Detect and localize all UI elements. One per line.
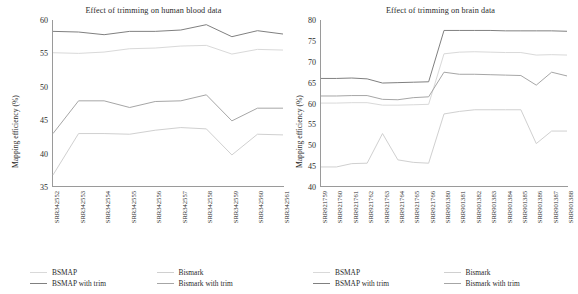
x-axis-tick-label: SRR342555 — [130, 191, 137, 223]
y-axis-tick: 55 — [308, 120, 320, 129]
series-line — [53, 128, 283, 175]
series-line — [321, 30, 567, 83]
legend-label: Bismark — [179, 268, 204, 277]
legend-swatch-icon — [313, 283, 330, 284]
x-axis-tick-label: SRR901388 — [567, 191, 574, 223]
x-axis-tick-label: SRR921764 — [398, 191, 405, 223]
legend-item[interactable]: Bismark — [157, 268, 282, 277]
x-axis-tick-label: SRR342558 — [206, 191, 213, 223]
x-axis-tick-label: SRR921762 — [367, 191, 374, 223]
series-lines — [52, 20, 284, 187]
legend-swatch-icon — [444, 283, 461, 284]
legend-item[interactable]: Bismark with trim — [444, 279, 573, 288]
y-axis-tick: 70 — [308, 57, 320, 66]
x-axis-tick-label: SRR342554 — [104, 191, 111, 223]
x-axis-tick-label: SRR342556 — [155, 191, 162, 223]
chart-legend: BSMAPBismarkBSMAP with trimBismark with … — [289, 268, 578, 288]
chart-panel-human-blood: Effect of trimming on human blood data M… — [0, 0, 289, 294]
y-axis-tick: 55 — [40, 49, 52, 58]
legend-item[interactable]: BSMAP — [313, 268, 442, 277]
y-axis-tick: 60 — [40, 16, 52, 25]
x-axis-tick-label: SRR901383 — [490, 191, 497, 223]
x-axis-tick-label: SRR342560 — [257, 191, 264, 223]
plot-area: 354045505560SRR342552SRR342553SRR342554S… — [52, 20, 284, 187]
y-axis-tick: 50 — [40, 82, 52, 91]
x-axis-tick-label: SRR901387 — [552, 191, 559, 223]
y-axis-label: Mapping efficiency (%) — [11, 95, 20, 168]
x-axis-tick-label: SRR342552 — [53, 191, 60, 223]
series-line — [321, 110, 567, 167]
series-line — [321, 72, 567, 100]
x-axis-tick: SRR901388 — [567, 159, 574, 191]
x-axis-tick-label: SRR342557 — [181, 191, 188, 223]
chart-title: Effect of trimming on brain data — [289, 6, 578, 15]
x-axis-tick-label: SRR901386 — [536, 191, 543, 223]
y-axis-tick: 45 — [308, 162, 320, 171]
y-axis-tick: 50 — [308, 141, 320, 150]
chart-legend: BSMAPBismarkBSMAP with trimBismark with … — [0, 268, 289, 288]
plot-area: 404550556065707580SRR921759SRR921760SRR9… — [320, 20, 568, 187]
legend-label: Bismark with trim — [466, 279, 520, 288]
legend-item[interactable]: Bismark — [444, 268, 573, 277]
legend-swatch-icon — [313, 272, 330, 273]
legend-item[interactable]: BSMAP with trim — [30, 279, 155, 288]
legend-swatch-icon — [157, 272, 174, 273]
y-axis-label: Mapping efficiency (%) — [295, 95, 304, 168]
y-axis-tick: 40 — [308, 183, 320, 192]
legend-swatch-icon — [30, 283, 47, 284]
legend-label: BSMAP — [52, 268, 77, 277]
x-axis-tick-label: SRR342559 — [232, 191, 239, 223]
series-line — [53, 95, 283, 134]
x-axis-tick-label: SRR342553 — [79, 191, 86, 223]
y-axis-tick: 45 — [40, 116, 52, 125]
x-axis-tick-label: SRR921760 — [336, 191, 343, 223]
series-line — [53, 45, 283, 54]
series-lines — [320, 20, 568, 187]
x-axis-tick-label: SRR921759 — [321, 191, 328, 223]
x-axis-tick-label: SRR901381 — [459, 191, 466, 223]
legend-item[interactable]: Bismark with trim — [157, 279, 282, 288]
legend-label: BSMAP with trim — [52, 279, 106, 288]
y-axis-tick: 75 — [308, 36, 320, 45]
x-axis-tick-label: SRR921761 — [352, 191, 359, 223]
legend-label: BSMAP — [335, 268, 360, 277]
chart-title: Effect of trimming on human blood data — [0, 6, 289, 15]
y-axis-tick: 35 — [40, 183, 52, 192]
legend-swatch-icon — [157, 283, 174, 284]
y-axis-tick: 40 — [40, 149, 52, 158]
legend-swatch-icon — [444, 272, 461, 273]
x-axis-tick-label: SRR921766 — [429, 191, 436, 223]
x-axis-tick-label: SRR921763 — [383, 191, 390, 223]
legend-label: BSMAP with trim — [335, 279, 389, 288]
figure-container: Effect of trimming on human blood data M… — [0, 0, 578, 294]
y-axis-tick: 80 — [308, 16, 320, 25]
y-axis-tick: 60 — [308, 99, 320, 108]
x-axis-tick-label: SRR901384 — [506, 191, 513, 223]
series-line — [53, 25, 283, 37]
legend-label: Bismark — [466, 268, 491, 277]
chart-panel-brain: Effect of trimming on brain data Mapping… — [289, 0, 578, 294]
y-axis-tick: 65 — [308, 78, 320, 87]
legend-label: Bismark with trim — [179, 279, 233, 288]
legend-item[interactable]: BSMAP with trim — [313, 279, 442, 288]
x-axis-tick-label: SRR921765 — [413, 191, 420, 223]
legend-swatch-icon — [30, 272, 47, 273]
x-axis-tick-label: SRR901385 — [521, 191, 528, 223]
x-axis-tick-label: SRR901380 — [444, 191, 451, 223]
legend-item[interactable]: BSMAP — [30, 268, 155, 277]
x-axis-tick-label: SRR901382 — [475, 191, 482, 223]
